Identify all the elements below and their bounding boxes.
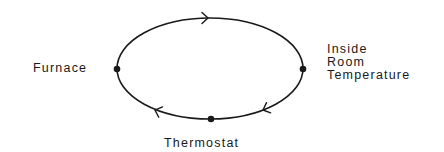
loop-ellipse [117, 18, 303, 119]
inside-room-temperature-label: Inside Room Temperature [327, 43, 410, 82]
node-thermostat [208, 116, 215, 123]
label-line-temperature: Temperature [327, 69, 410, 82]
furnace-label: Furnace [33, 62, 87, 75]
thermostat-label: Thermostat [164, 137, 239, 150]
node-inside-room-temperature [300, 66, 307, 73]
node-furnace [114, 66, 121, 73]
